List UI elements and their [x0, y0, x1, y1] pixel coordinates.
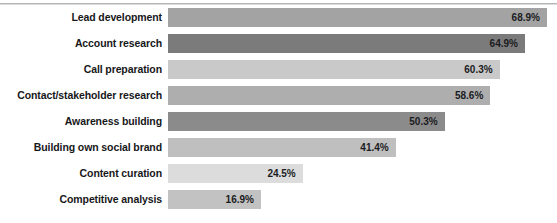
bar-value-label: 60.3%	[464, 60, 492, 79]
bar-track: 50.3%	[168, 112, 445, 131]
bar-track: 16.9%	[168, 190, 261, 209]
bar-fill	[168, 86, 490, 105]
bar-track: 24.5%	[168, 164, 303, 183]
bar-track: 41.4%	[168, 138, 396, 157]
bar-row: Content curation24.5%	[0, 164, 557, 183]
bar-fill	[168, 112, 445, 131]
bar-track: 64.9%	[168, 34, 525, 53]
bar-value-label: 41.4%	[360, 138, 388, 157]
bar-category-label: Call preparation	[0, 60, 162, 79]
bar-row: Call preparation60.3%	[0, 60, 557, 79]
chart-top-divider-shadow	[0, 4, 557, 5]
bar-fill	[168, 34, 525, 53]
bar-row: Lead development68.9%	[0, 8, 557, 27]
bar-category-label: Building own social brand	[0, 138, 162, 157]
bar-track: 60.3%	[168, 60, 500, 79]
bar-row: Competitive analysis16.9%	[0, 190, 557, 209]
bar-row: Contact/stakeholder research58.6%	[0, 86, 557, 105]
bar-value-label: 64.9%	[490, 34, 518, 53]
bar-category-label: Competitive analysis	[0, 190, 162, 209]
bar-value-label: 68.9%	[512, 8, 540, 27]
bar-value-label: 16.9%	[226, 190, 254, 209]
bar-value-label: 58.6%	[455, 86, 483, 105]
bar-category-label: Account research	[0, 34, 162, 53]
bar-category-label: Awareness building	[0, 112, 162, 131]
bar-row: Awareness building50.3%	[0, 112, 557, 131]
bar-fill	[168, 60, 500, 79]
bar-category-label: Content curation	[0, 164, 162, 183]
bar-row: Building own social brand41.4%	[0, 138, 557, 157]
bar-value-label: 50.3%	[409, 112, 437, 131]
bar-track: 68.9%	[168, 8, 547, 27]
bar-track: 58.6%	[168, 86, 490, 105]
bar-category-label: Contact/stakeholder research	[0, 86, 162, 105]
horizontal-bar-chart: Lead development68.9%Account research64.…	[0, 0, 557, 223]
bar-value-label: 24.5%	[267, 164, 295, 183]
bar-category-label: Lead development	[0, 8, 162, 27]
chart-plot-area: Lead development68.9%Account research64.…	[0, 8, 557, 215]
bar-row: Account research64.9%	[0, 34, 557, 53]
bar-fill	[168, 8, 547, 27]
